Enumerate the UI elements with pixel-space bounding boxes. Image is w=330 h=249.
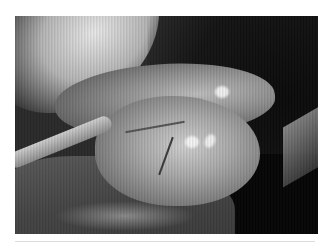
figure-photo: Grayscale intraoperative photograph show… [15, 16, 318, 234]
scan-texture [15, 16, 318, 234]
divider-line [15, 241, 315, 242]
